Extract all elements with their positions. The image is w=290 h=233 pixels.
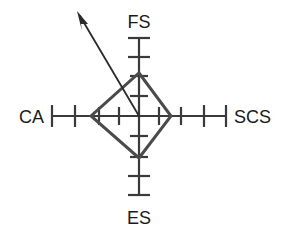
figure-container: FS ES CA SCS	[0, 0, 290, 233]
axis-label-west: CA	[19, 107, 44, 127]
radar-chart: FS ES CA SCS	[0, 0, 290, 233]
axis-label-south: ES	[127, 208, 151, 228]
axis-label-north: FS	[127, 12, 150, 32]
axis-label-east: SCS	[234, 107, 271, 127]
